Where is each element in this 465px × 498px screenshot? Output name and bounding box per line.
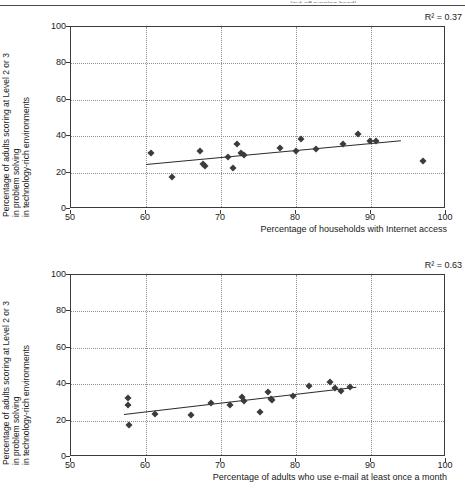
y-axis-tick-mark <box>66 26 70 27</box>
gridline-horizontal <box>71 173 444 174</box>
gridline-vertical <box>146 275 147 455</box>
gridline-horizontal <box>71 63 444 64</box>
y-axis-tick-label: 60 <box>40 94 66 103</box>
x-axis-tick-label: 90 <box>355 461 385 470</box>
y-axis-tick-mark <box>66 347 70 348</box>
y-axis-title-line-3: in technology-rich environments <box>22 97 31 217</box>
data-point-marker <box>147 149 154 156</box>
data-point-marker <box>224 154 231 161</box>
x-axis-tick-label: 100 <box>430 461 460 470</box>
data-point-marker <box>240 152 247 159</box>
x-axis-tick-labels-chart-2: 5060708090100 <box>70 458 445 472</box>
x-axis-tick-mark <box>70 458 71 462</box>
data-point-marker <box>124 394 131 401</box>
y-axis-tick-mark <box>66 135 70 136</box>
y-axis-tick-label: 100 <box>40 270 66 279</box>
x-axis-tick-mark <box>220 210 221 214</box>
data-point-marker <box>419 157 426 164</box>
y-axis-tick-mark <box>66 208 70 209</box>
x-axis-tick-label: 60 <box>130 213 160 222</box>
y-axis-title-chart-2: Percentage of adults scoring at Level 2 … <box>0 274 36 456</box>
gridline-horizontal <box>71 100 444 101</box>
y-axis-title-line-1: Percentage of adults scoring at Level 2 … <box>2 53 11 217</box>
gridline-vertical <box>371 27 372 207</box>
r-squared-annotation-chart-1: R² = 0.37 <box>425 12 462 22</box>
y-axis-tick-mark <box>66 310 70 311</box>
data-point-marker <box>229 165 236 172</box>
x-axis-tick-label: 80 <box>280 213 310 222</box>
r-squared-annotation-chart-2: R² = 0.63 <box>425 260 462 270</box>
x-axis-tick-label: 60 <box>130 461 160 470</box>
y-axis-tick-label: 80 <box>40 306 66 315</box>
y-axis-tick-label: 40 <box>40 131 66 140</box>
y-axis-tick-mark <box>66 274 70 275</box>
y-axis-tick-label: 20 <box>40 415 66 424</box>
x-axis-tick-mark <box>295 458 296 462</box>
y-axis-tick-label: 20 <box>40 167 66 176</box>
data-point-marker <box>226 402 233 409</box>
page-running-header: (cut-off running head) <box>290 0 380 3</box>
gridline-vertical <box>146 27 147 207</box>
y-axis-tick-mark <box>66 172 70 173</box>
y-axis-tick-mark <box>66 383 70 384</box>
header-rule <box>0 5 465 6</box>
gridline-horizontal <box>71 384 444 385</box>
x-axis-tick-label: 80 <box>280 461 310 470</box>
plot-area-chart-1 <box>70 26 445 208</box>
y-axis-tick-label: 60 <box>40 342 66 351</box>
x-axis-tick-label: 50 <box>55 461 85 470</box>
data-point-marker <box>151 411 158 418</box>
x-axis-tick-labels-chart-1: 5060708090100 <box>70 210 445 224</box>
y-axis-tick-mark <box>66 62 70 63</box>
y-axis-title-chart-1: Percentage of adults scoring at Level 2 … <box>0 26 36 208</box>
y-axis-title-line-1: Percentage of adults scoring at Level 2 … <box>2 301 11 465</box>
scatter-chart-email-use: R² = 0.63 Percentage of adults scoring a… <box>0 258 465 498</box>
x-axis-tick-mark <box>445 210 446 214</box>
x-axis-tick-mark <box>370 458 371 462</box>
data-point-marker <box>196 147 203 154</box>
gridline-horizontal <box>71 421 444 422</box>
x-axis-tick-mark <box>445 458 446 462</box>
y-axis-tick-labels-chart-2: 020406080100 <box>36 274 66 456</box>
data-point-marker <box>337 388 344 395</box>
trendline <box>146 140 401 165</box>
x-axis-tick-mark <box>145 458 146 462</box>
data-point-marker <box>124 402 131 409</box>
data-point-marker <box>187 412 194 419</box>
x-axis-tick-mark <box>295 210 296 214</box>
x-axis-tick-label: 70 <box>205 461 235 470</box>
y-axis-tick-mark <box>66 456 70 457</box>
x-axis-tick-label: 50 <box>55 213 85 222</box>
data-point-marker <box>292 147 299 154</box>
x-axis-tick-label: 70 <box>205 213 235 222</box>
y-axis-tick-labels-chart-1: 020406080100 <box>36 26 66 208</box>
x-axis-tick-mark <box>145 210 146 214</box>
plot-inner-chart-2 <box>71 275 444 455</box>
data-point-marker <box>312 145 319 152</box>
data-point-marker <box>207 400 214 407</box>
y-axis-tick-label: 100 <box>40 22 66 31</box>
gridline-vertical <box>221 275 222 455</box>
data-point-marker <box>233 141 240 148</box>
y-axis-tick-label: 0 <box>40 204 66 213</box>
x-axis-tick-label: 100 <box>430 213 460 222</box>
gridline-horizontal <box>71 311 444 312</box>
gridline-horizontal <box>71 348 444 349</box>
y-axis-title-line-3: in technology-rich environments <box>22 345 31 465</box>
plot-area-chart-2 <box>70 274 445 456</box>
plot-inner-chart-1 <box>71 27 444 207</box>
y-axis-tick-label: 0 <box>40 452 66 461</box>
data-point-marker <box>256 409 263 416</box>
gridline-vertical <box>221 27 222 207</box>
x-axis-title-chart-2: Percentage of adults who use e-mail at l… <box>213 472 447 483</box>
y-axis-title-line-2: in problem solving <box>12 396 21 465</box>
data-point-marker <box>125 422 132 429</box>
gridline-vertical <box>296 27 297 207</box>
x-axis-tick-mark <box>370 210 371 214</box>
y-axis-tick-mark <box>66 420 70 421</box>
y-axis-tick-mark <box>66 99 70 100</box>
gridline-vertical <box>296 275 297 455</box>
scatter-chart-internet-access: R² = 0.37 Percentage of adults scoring a… <box>0 10 465 250</box>
x-axis-tick-mark <box>220 458 221 462</box>
gridline-horizontal <box>71 136 444 137</box>
